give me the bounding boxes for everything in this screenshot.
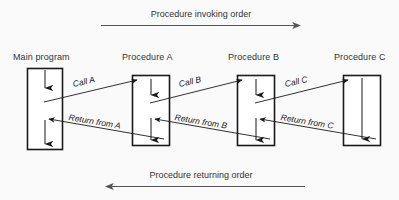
procedure-b-box [238, 76, 275, 146]
column-label-procedure-b: Procedure B [228, 52, 279, 62]
column-label-main-program: Main program [13, 52, 70, 62]
column-label-procedure-c: Procedure C [334, 52, 386, 62]
returning-order-label: Procedure returning order [101, 170, 301, 180]
diagram-canvas: Procedure invoking order Procedure retur… [0, 0, 399, 200]
procedure-a-box [133, 76, 170, 146]
column-label-procedure-a: Procedure A [122, 52, 173, 62]
main-program-box [28, 69, 63, 150]
procedure-c-box [344, 76, 381, 146]
invoking-order-label: Procedure invoking order [101, 9, 301, 19]
